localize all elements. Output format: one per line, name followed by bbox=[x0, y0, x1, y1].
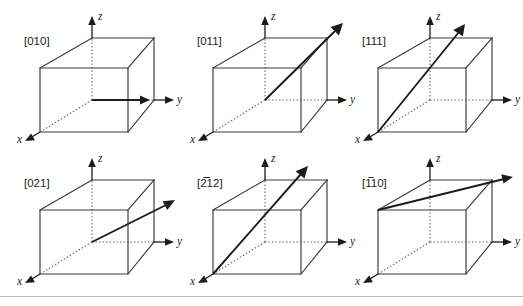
hidden-edge-x bbox=[213, 100, 265, 132]
z-axis-label: z bbox=[97, 10, 103, 22]
x-axis-arrowhead bbox=[363, 276, 373, 283]
y-axis-arrowhead bbox=[338, 96, 347, 104]
direction-arrowhead bbox=[501, 174, 513, 183]
hidden-edge-x bbox=[378, 242, 430, 274]
diagram-cell-010: z y x [010] bbox=[14, 10, 188, 150]
x-axis-label: x bbox=[354, 133, 361, 145]
index-label-group: [212] bbox=[197, 177, 223, 189]
direction-arrow bbox=[378, 179, 504, 210]
connector-top-right bbox=[128, 180, 154, 210]
index-label: [212] bbox=[197, 177, 223, 189]
hidden-edge-x bbox=[40, 242, 92, 274]
index-label: [021] bbox=[24, 177, 50, 189]
direction-arrowhead bbox=[296, 166, 308, 178]
cube-diagram-111: z y x [111] bbox=[352, 10, 523, 150]
index-label: [111] bbox=[362, 35, 386, 47]
hidden-edge-x bbox=[40, 100, 92, 132]
index-label: [011] bbox=[197, 35, 222, 47]
z-axis-label: z bbox=[435, 10, 441, 22]
x-axis-label: x bbox=[189, 275, 196, 287]
y-axis-label: y bbox=[514, 93, 521, 106]
y-axis-arrowhead bbox=[165, 96, 174, 104]
x-axis-arrowhead bbox=[25, 134, 35, 141]
z-axis-label: z bbox=[270, 10, 276, 22]
z-axis-label: z bbox=[270, 152, 276, 164]
index-label-group: [110] bbox=[362, 177, 387, 189]
y-axis-arrowhead bbox=[503, 238, 512, 246]
diagram-cell-1bar10: z y x [110] bbox=[352, 152, 523, 292]
y-axis-arrowhead bbox=[165, 238, 174, 246]
connector-bottom-right bbox=[301, 100, 327, 132]
y-axis-label: y bbox=[176, 235, 183, 248]
connector-bottom-right bbox=[128, 100, 154, 132]
diagram-cell-021: z y x [021] bbox=[14, 152, 188, 292]
direction-arrowhead bbox=[453, 24, 465, 36]
cube-diagram-1bar10: z y x [110] bbox=[352, 152, 523, 292]
z-axis-arrowhead bbox=[88, 16, 96, 25]
diagram-cell-111: z y x [111] bbox=[352, 10, 523, 150]
z-axis-arrowhead bbox=[426, 158, 434, 167]
diagram-cell-2bar12: z y x [212] bbox=[187, 152, 361, 292]
cube-diagram-011: z y x [011] bbox=[187, 10, 361, 150]
connector-top-right bbox=[128, 38, 154, 68]
index-label: [010] bbox=[24, 35, 50, 47]
x-axis-label: x bbox=[189, 133, 196, 145]
z-axis-arrowhead bbox=[261, 16, 269, 25]
front-face bbox=[378, 210, 466, 274]
direction-arrow bbox=[265, 31, 335, 100]
cube-diagram-2bar12: z y x [212] bbox=[187, 152, 361, 292]
connector-bottom-right bbox=[466, 242, 492, 274]
connector-bottom-right bbox=[128, 242, 154, 274]
index-label: [110] bbox=[362, 177, 387, 189]
connector-bottom-right bbox=[466, 100, 492, 132]
z-axis-arrowhead bbox=[88, 158, 96, 167]
y-axis-label: y bbox=[514, 235, 521, 248]
directions-figure: z y x [010] bbox=[0, 0, 523, 306]
z-axis-label: z bbox=[435, 152, 441, 164]
x-axis-arrowhead bbox=[25, 276, 35, 283]
direction-arrow bbox=[213, 174, 301, 274]
y-axis-label: y bbox=[176, 93, 183, 106]
connector-top-right bbox=[466, 38, 492, 68]
hidden-edge-x bbox=[213, 242, 265, 274]
x-axis-label: x bbox=[16, 133, 23, 145]
cube-diagram-010: z y x [010] bbox=[14, 10, 188, 150]
hidden-edge-x bbox=[378, 100, 430, 132]
x-axis-arrowhead bbox=[198, 134, 208, 141]
bottom-divider bbox=[0, 296, 523, 297]
front-face bbox=[213, 210, 301, 274]
connector-top-right bbox=[301, 180, 327, 210]
diagram-cell-011: z y x [011] bbox=[187, 10, 361, 150]
direction-arrow bbox=[378, 32, 459, 132]
direction-arrowhead bbox=[140, 95, 150, 104]
x-axis-label: x bbox=[354, 275, 361, 287]
x-axis-arrowhead bbox=[198, 276, 208, 283]
cube-diagram-021: z y x [021] bbox=[14, 152, 188, 292]
z-axis-arrowhead bbox=[261, 158, 269, 167]
y-axis-arrowhead bbox=[503, 96, 512, 104]
connector-bottom-right bbox=[301, 242, 327, 274]
x-axis-label: x bbox=[16, 275, 23, 287]
x-axis-arrowhead bbox=[363, 134, 373, 141]
front-face bbox=[40, 210, 128, 274]
y-axis-arrowhead bbox=[338, 238, 347, 246]
z-axis-arrowhead bbox=[426, 16, 434, 25]
z-axis-label: z bbox=[97, 152, 103, 164]
